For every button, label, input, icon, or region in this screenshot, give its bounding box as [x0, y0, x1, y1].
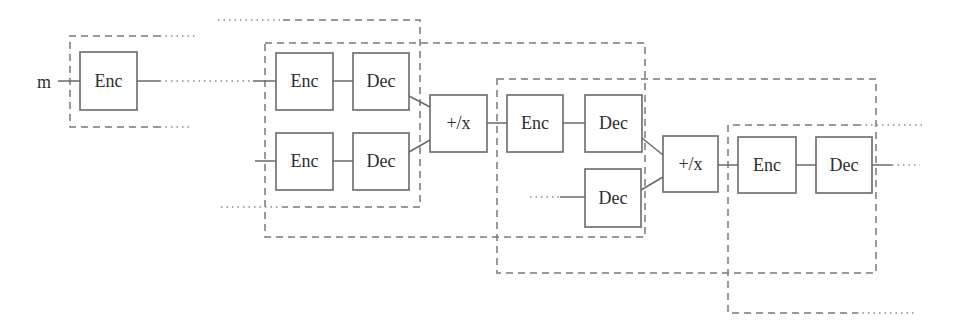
node-label: Enc [291, 151, 319, 171]
input-label-m: m [37, 72, 51, 92]
node-enc-2a: Enc [276, 53, 333, 110]
node-label: Dec [367, 71, 396, 91]
encoder-decoder-diagram: m Enc Enc Dec Enc Dec +/x Enc Dec Dec +/… [0, 0, 953, 332]
node-dec-3b: Dec [585, 169, 641, 227]
node-label: Enc [521, 113, 549, 133]
node-combine-2: +/x [663, 136, 718, 192]
node-combine-1: +/x [430, 95, 487, 152]
diagram-svg: m Enc Enc Dec Enc Dec +/x Enc Dec Dec +/… [0, 0, 953, 332]
node-label: Enc [753, 155, 781, 175]
node-label: Enc [95, 71, 123, 91]
node-dec-2b: Dec [353, 133, 409, 190]
node-label: Dec [830, 155, 859, 175]
node-label: +/x [678, 154, 702, 174]
node-label: +/x [446, 113, 470, 133]
node-label: Dec [599, 113, 628, 133]
node-label: Enc [291, 71, 319, 91]
node-dec-2a: Dec [353, 53, 409, 110]
node-enc-2b: Enc [276, 133, 333, 190]
node-enc-3: Enc [507, 95, 563, 152]
node-dec-3a: Dec [585, 95, 642, 152]
node-label: Dec [599, 188, 628, 208]
node-enc-1: Enc [80, 52, 137, 110]
node-enc-4: Enc [738, 137, 796, 193]
node-dec-4: Dec [816, 137, 872, 193]
node-label: Dec [367, 151, 396, 171]
